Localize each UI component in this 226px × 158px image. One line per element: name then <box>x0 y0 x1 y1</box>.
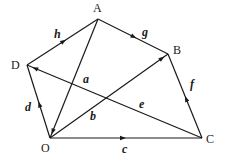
edge-label-g: g <box>141 25 148 39</box>
edge-e <box>27 65 202 138</box>
edge-label-d: d <box>25 100 32 114</box>
arrowhead-h-icon <box>60 40 66 45</box>
vertex-label-b: B <box>173 43 181 57</box>
arrowhead-c-icon <box>120 136 126 140</box>
arrowhead-e-icon <box>32 67 38 71</box>
arrowhead-f-icon <box>185 96 189 102</box>
arrowhead-g-icon <box>130 34 136 39</box>
vertex-label-a: A <box>93 1 102 15</box>
arrowhead-b-icon <box>158 57 164 62</box>
vertex-label-c: C <box>206 132 214 146</box>
vector-diagram: A B C D O h g f e d a b c <box>0 0 226 158</box>
edge-label-b: b <box>90 109 96 123</box>
edge-label-f: f <box>190 77 195 91</box>
edge-label-a: a <box>83 72 89 86</box>
vertex-label-o: O <box>41 141 50 155</box>
edge-label-c: c <box>122 142 128 156</box>
arrowhead-a-icon <box>51 128 55 134</box>
arrowhead-d-icon <box>38 102 42 108</box>
edge-label-h: h <box>54 27 61 41</box>
edge-b <box>50 54 168 138</box>
vertex-label-d: D <box>11 58 20 72</box>
edge-label-e: e <box>139 97 145 111</box>
